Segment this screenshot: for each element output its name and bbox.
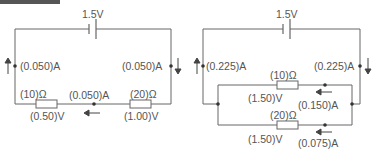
- branch2-current: (0.075)A: [298, 138, 338, 149]
- parallel-battery-label: 1.5V: [276, 9, 298, 20]
- branch-resistor-10-icon: [277, 81, 298, 89]
- branch1-voltage: (1.50)V: [248, 93, 282, 104]
- series-r1-resistance: (10)Ω: [20, 89, 47, 100]
- series-current-left: (0.050)A: [20, 61, 60, 72]
- series-current-right: (0.050)A: [122, 61, 162, 72]
- branch-resistor-20-icon: [277, 121, 298, 129]
- branch2-voltage: (1.50)V: [248, 134, 282, 145]
- series-r2-voltage: (1.00)V: [124, 111, 158, 122]
- resistor-10-icon: [36, 100, 57, 108]
- series-r1-voltage: (0.50)V: [30, 111, 64, 122]
- circuit-diagrams: [0, 0, 375, 149]
- parallel-current-right: (0.225)A: [314, 61, 354, 72]
- series-battery-label: 1.5V: [82, 9, 104, 20]
- branch2-resistance: (20)Ω: [270, 110, 297, 121]
- branch1-current: (0.150)A: [298, 100, 338, 111]
- parallel-current-left: (0.225)A: [206, 61, 246, 72]
- resistor-20-icon: [130, 100, 151, 108]
- branch1-resistance: (10)Ω: [270, 70, 297, 81]
- series-r2-resistance: (20)Ω: [130, 89, 157, 100]
- series-current-bottom: (0.050)A: [69, 90, 109, 101]
